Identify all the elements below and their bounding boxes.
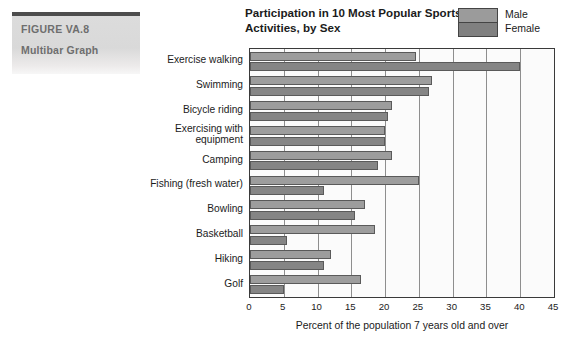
x-tick-20: 20	[379, 301, 390, 312]
y-axis-category-labels: Exercise walkingSwimmingBicycle ridingEx…	[150, 48, 247, 298]
gridline-35	[486, 49, 487, 297]
bar-male-7	[250, 225, 375, 234]
bar-male-2	[250, 101, 392, 110]
bar-male-5	[250, 176, 419, 185]
category-label-7: Basketball	[93, 228, 243, 239]
bar-female-7	[250, 236, 287, 245]
bar-male-3	[250, 126, 385, 135]
plot-wrap: Exercise walkingSwimmingBicycle ridingEx…	[150, 48, 586, 298]
bar-female-6	[250, 211, 355, 220]
bar-female-3	[250, 137, 385, 146]
category-label-5: Fishing (fresh water)	[93, 178, 243, 189]
bar-male-8	[250, 250, 331, 259]
figure-number: FIGURE VA.8	[21, 23, 140, 35]
x-tick-35: 35	[480, 301, 491, 312]
legend-swatch-female	[459, 23, 497, 36]
x-tick-5: 5	[280, 301, 285, 312]
category-label-4: Camping	[93, 154, 243, 165]
gridline-40	[520, 49, 521, 297]
bar-male-9	[250, 275, 361, 284]
x-tick-15: 15	[345, 301, 356, 312]
legend-label-female: Female	[505, 22, 540, 36]
chart-legend: Male Female	[458, 8, 540, 37]
plot-area	[249, 48, 555, 298]
bar-female-1	[250, 87, 429, 96]
x-tick-45: 45	[548, 301, 559, 312]
bar-female-2	[250, 112, 388, 121]
x-axis-label: Percent of the population 7 years old an…	[249, 320, 555, 331]
x-tick-40: 40	[514, 301, 525, 312]
bar-male-0	[250, 52, 416, 61]
bar-male-4	[250, 151, 392, 160]
legend-labels: Male Female	[505, 8, 540, 35]
bar-female-4	[250, 161, 378, 170]
bar-female-8	[250, 261, 324, 270]
bar-male-6	[250, 200, 365, 209]
category-label-2: Bicycle riding	[93, 104, 243, 115]
x-tick-30: 30	[446, 301, 457, 312]
x-tick-25: 25	[413, 301, 424, 312]
gridline-30	[453, 49, 454, 297]
legend-swatches	[458, 8, 498, 37]
category-label-3: Exercising with equipment	[157, 123, 243, 146]
category-label-8: Hiking	[93, 253, 243, 264]
legend-label-male: Male	[505, 8, 540, 22]
category-label-6: Bowling	[93, 203, 243, 214]
legend-swatch-male	[459, 9, 497, 23]
category-label-9: Golf	[93, 278, 243, 289]
x-tick-10: 10	[311, 301, 322, 312]
bar-female-9	[250, 285, 284, 294]
category-label-1: Swimming	[93, 79, 243, 90]
bar-female-5	[250, 186, 324, 195]
x-axis: 051015202530354045	[249, 298, 555, 318]
bar-male-1	[250, 76, 432, 85]
chart-container: Participation in 10 Most Popular Sports …	[150, 0, 586, 350]
category-label-0: Exercise walking	[93, 54, 243, 65]
x-tick-0: 0	[246, 301, 251, 312]
bar-female-0	[250, 62, 520, 71]
